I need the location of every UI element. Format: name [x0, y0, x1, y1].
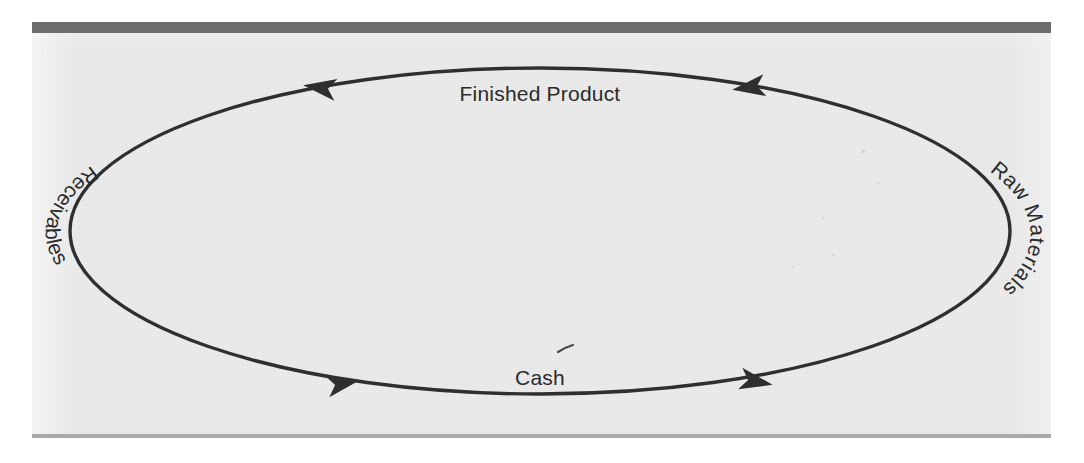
figure-root: Finished Product Cash Raw Materials Rece… — [0, 0, 1084, 463]
label-finished-product: Finished Product — [460, 82, 621, 105]
label-raw-materials: Raw Materials — [987, 156, 1050, 301]
scan-artifact-mark — [558, 345, 573, 352]
cycle-ellipse — [70, 68, 1010, 394]
arrow-top-left-icon — [302, 74, 338, 100]
label-cash: Cash — [515, 366, 565, 389]
arrow-bottom-left-icon — [325, 369, 362, 397]
cycle-diagram: Finished Product Cash Raw Materials Rece… — [0, 0, 1084, 463]
